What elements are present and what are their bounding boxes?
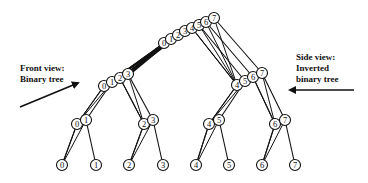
node-label: 7 [293,160,297,170]
node-label: 2 [142,119,146,129]
side-view-subtitle-2: binary tree [296,74,339,85]
node-label: 7 [212,13,216,23]
leaf-node-5: 5 [224,160,235,171]
front-view-arrow-icon [20,83,78,107]
edge-level2-leaf [285,120,295,165]
node-label: 3 [126,69,130,79]
side-view-title: Side view: [296,52,339,63]
node-label: 5 [227,160,231,170]
level2-node-5: 5 [214,115,225,126]
node-label: 7 [283,115,287,125]
edge-root-level1 [199,25,245,81]
edge-cross [199,25,237,85]
node-label: 6 [251,72,255,82]
node-label: 6 [273,119,277,129]
diagram-canvas: 01234567012345670123456701234567 Front v… [0,0,368,183]
edge-level2-leaf [86,120,96,165]
edge-level2-leaf [153,120,163,165]
edge-bundle [132,46,162,71]
node-label: 0 [60,160,64,170]
edge-level2-leaf [219,120,229,165]
level1-node-7: 7 [257,68,268,79]
level2-node-6: 6 [270,119,281,130]
node-label: 3 [161,160,165,170]
edge-level1-level2 [262,73,285,120]
edge-cross [262,124,275,165]
leaf-node-4: 4 [191,160,202,171]
view-arrows [20,83,354,107]
node-label: 1 [110,77,114,87]
node-label: 6 [260,160,264,170]
leaf-node-3: 3 [158,160,169,171]
side-view-label: Side view: Inverted binary tree [296,52,339,85]
edge-cross [214,18,237,85]
node-label: 5 [217,115,221,125]
front-view-label: Front view: Binary tree [20,63,65,85]
node-label: 0 [75,119,79,129]
binary-tree-diagram: 01234567012345670123456701234567 [0,0,368,183]
node-label: 2 [127,160,131,170]
level2-node-3: 3 [148,115,159,126]
front-view-title: Front view: [20,63,65,74]
node-label: 3 [151,115,155,125]
tree-nodes: 01234567012345670123456701234567 [57,13,301,171]
edge-cross [129,124,144,165]
node-label: 5 [243,76,247,86]
leaf-node-0: 0 [57,160,68,171]
edge-cross [262,73,275,124]
edge-cross [253,77,275,124]
level2-node-7: 7 [280,115,291,126]
front-view-subtitle: Binary tree [20,74,65,85]
level2-node-4: 4 [204,119,215,130]
node-label: 1 [84,115,88,125]
edge-cross [196,124,209,165]
node-label: 0 [102,81,106,91]
leaf-node-6: 6 [257,160,268,171]
node-label: 6 [204,17,208,27]
root-node-7: 7 [209,13,220,24]
level2-node-1: 1 [81,115,92,126]
leaf-node-7: 7 [290,160,301,171]
node-label: 2 [118,73,122,83]
edge-cross [62,124,77,165]
node-label: 1 [94,160,98,170]
leaf-node-1: 1 [91,160,102,171]
node-label: 7 [260,68,264,78]
leaf-node-2: 2 [124,160,135,171]
side-view-subtitle-1: Inverted [296,63,339,74]
level1-node-3: 3 [123,69,134,80]
